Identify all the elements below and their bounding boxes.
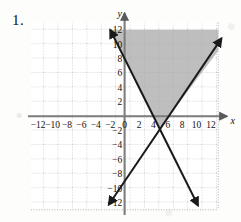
y-tick--6: −6 — [112, 155, 122, 165]
y-tick-8: 8 — [117, 54, 122, 64]
y-tick-6: 6 — [117, 68, 122, 78]
x-tick--4: −4 — [91, 120, 101, 130]
y-tick--2: −2 — [112, 126, 122, 136]
x-tick--6: −6 — [76, 120, 86, 130]
x-tick--10: −10 — [45, 120, 60, 130]
x-tick-6: 6 — [165, 120, 170, 130]
y-tick--10: −10 — [107, 184, 122, 194]
y-tick--4: −4 — [112, 140, 122, 150]
coordinate-plane-graph: −12−10−8−6−4−2024681012 12108642−2−4−6−8… — [0, 0, 241, 222]
y-axis-label: y — [116, 8, 122, 19]
x-tick-2: 2 — [137, 120, 142, 130]
x-tick--8: −8 — [62, 120, 72, 130]
x-tick-8: 8 — [180, 120, 185, 130]
y-tick--8: −8 — [112, 169, 122, 179]
x-axis-label: x — [230, 115, 236, 126]
x-tick-12: 12 — [206, 120, 216, 130]
x-tick-0: 0 — [122, 120, 127, 130]
y-tick-2: 2 — [117, 97, 122, 107]
y-tick-10: 10 — [113, 40, 123, 50]
x-tick-4: 4 — [151, 120, 156, 130]
worksheet-page: 1. — [0, 0, 241, 222]
y-tick-12: 12 — [113, 25, 123, 35]
y-tick-4: 4 — [117, 83, 122, 93]
y-tick--12: −12 — [107, 198, 122, 208]
x-tick-10: 10 — [192, 120, 202, 130]
x-tick--12: −12 — [31, 120, 46, 130]
